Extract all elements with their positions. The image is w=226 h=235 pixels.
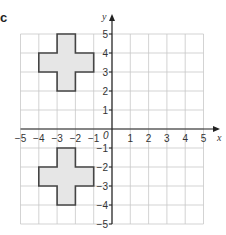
x-tick-label: 3 <box>164 133 170 144</box>
y-tick-label: −3 <box>97 181 109 192</box>
y-tick-label: 3 <box>102 67 108 78</box>
cross-upper-shape <box>39 34 94 91</box>
cross-lower-shape <box>39 148 94 205</box>
y-tick-label: 1 <box>102 105 108 116</box>
y-tick-label: −5 <box>97 219 109 230</box>
x-tick-label: −4 <box>33 133 45 144</box>
x-tick-label: 2 <box>146 133 152 144</box>
x-tick-label: −3 <box>51 133 63 144</box>
y-axis-label: y <box>101 11 107 22</box>
y-tick-label: −2 <box>97 162 109 173</box>
x-tick-label: 5 <box>201 133 207 144</box>
origin-label: 0 <box>103 130 109 141</box>
x-axis-label: x <box>216 132 222 143</box>
y-tick-label: −1 <box>97 143 109 154</box>
y-axis-arrow-icon <box>109 14 115 21</box>
x-tick-label: 4 <box>182 133 188 144</box>
y-tick-label: 5 <box>102 29 108 40</box>
y-tick-label: 4 <box>102 48 108 59</box>
x-tick-label: 1 <box>128 133 134 144</box>
y-tick-label: 2 <box>102 86 108 97</box>
coordinate-grid: xy0−5−4−3−2−11234554321−1−2−3−4−5 <box>0 0 226 235</box>
y-tick-label: −4 <box>97 200 109 211</box>
x-tick-label: −2 <box>70 133 82 144</box>
x-tick-label: −5 <box>15 133 27 144</box>
